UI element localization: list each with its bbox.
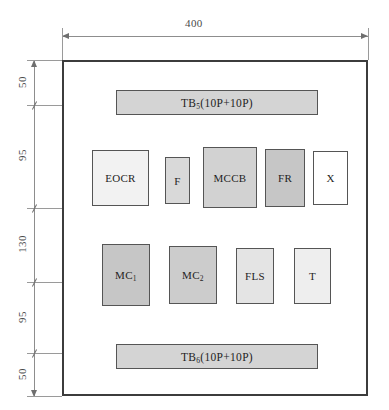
overall-width-label: 400 [185, 17, 203, 29]
terminal-block-tb5[interactable]: TB5(10P+10P) [116, 90, 318, 115]
component-f[interactable]: F [165, 157, 190, 204]
height-extension-line-0 [27, 60, 62, 61]
height-dimension-line [34, 60, 35, 397]
width-extension-line-left [62, 28, 63, 60]
component-fls-label: FLS [245, 270, 265, 282]
component-mc1-label: MC1 [115, 269, 137, 281]
component-t[interactable]: T [294, 248, 331, 304]
height-dimension-label-2: 130 [16, 229, 28, 259]
height-dimension-label-3: 95 [16, 302, 28, 332]
terminal-block-tb6[interactable]: TB6(10P+10P) [116, 344, 318, 369]
component-x-label: X [326, 172, 334, 184]
component-mccb-label: MCCB [214, 172, 247, 184]
component-mc2-label: MC2 [182, 269, 204, 281]
height-dimension-label-0: 50 [16, 67, 28, 97]
component-eocr[interactable]: EOCR [92, 150, 149, 206]
component-t-label: T [309, 270, 316, 282]
enclosure-outline: TB5(10P+10P) EOCR F MCCB FR X [62, 60, 368, 396]
component-fr-label: FR [278, 172, 292, 184]
height-extension-line-5 [27, 396, 62, 397]
component-mc1[interactable]: MC1 [102, 244, 150, 306]
terminal-block-tb6-label: TB6(10P+10P) [181, 351, 253, 363]
component-fr[interactable]: FR [265, 149, 305, 207]
width-arrow-right-icon [361, 33, 368, 39]
terminal-block-tb5-label: TB5(10P+10P) [181, 97, 253, 109]
panel-layout-drawing: 400 50 95 130 95 50 TB5(10P+10P) EOCR [0, 0, 389, 410]
component-mc2[interactable]: MC2 [169, 246, 217, 304]
component-fls[interactable]: FLS [236, 248, 274, 304]
component-mccb[interactable]: MCCB [203, 147, 257, 208]
component-x[interactable]: X [313, 151, 348, 205]
width-extension-line-right [368, 28, 369, 60]
overall-width-dimension-line [62, 36, 368, 37]
width-arrow-left-icon [62, 33, 69, 39]
component-f-label: F [174, 175, 180, 187]
height-dimension-label-1: 95 [16, 140, 28, 170]
height-dimension-label-4: 50 [16, 359, 28, 389]
component-eocr-label: EOCR [105, 172, 136, 184]
height-arrow-top-icon [31, 60, 37, 67]
